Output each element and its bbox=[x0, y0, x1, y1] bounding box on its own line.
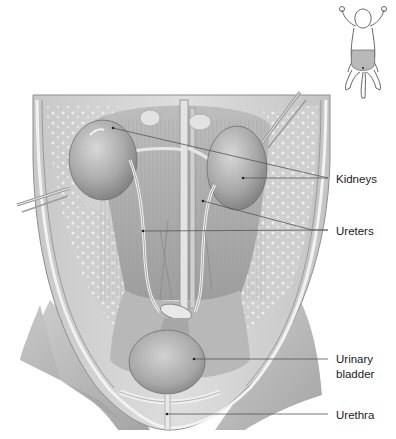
label-ureters: Ureters bbox=[336, 224, 374, 238]
aorta bbox=[180, 100, 188, 310]
urinary-bladder bbox=[129, 330, 205, 394]
label-urethra: Urethra bbox=[336, 408, 374, 422]
kidney-left bbox=[69, 120, 137, 200]
label-urinary-bladder-line1: Urinary bbox=[336, 352, 373, 366]
urethra bbox=[165, 394, 170, 430]
label-urinary-bladder-line2: bladder bbox=[336, 367, 374, 381]
anatomy-figure: Kidneys Ureters Urinary bladder Urethra bbox=[0, 0, 396, 439]
orientation-thumbnail bbox=[330, 0, 396, 100]
kidney-right bbox=[207, 126, 267, 210]
label-kidneys: Kidneys bbox=[336, 172, 377, 186]
